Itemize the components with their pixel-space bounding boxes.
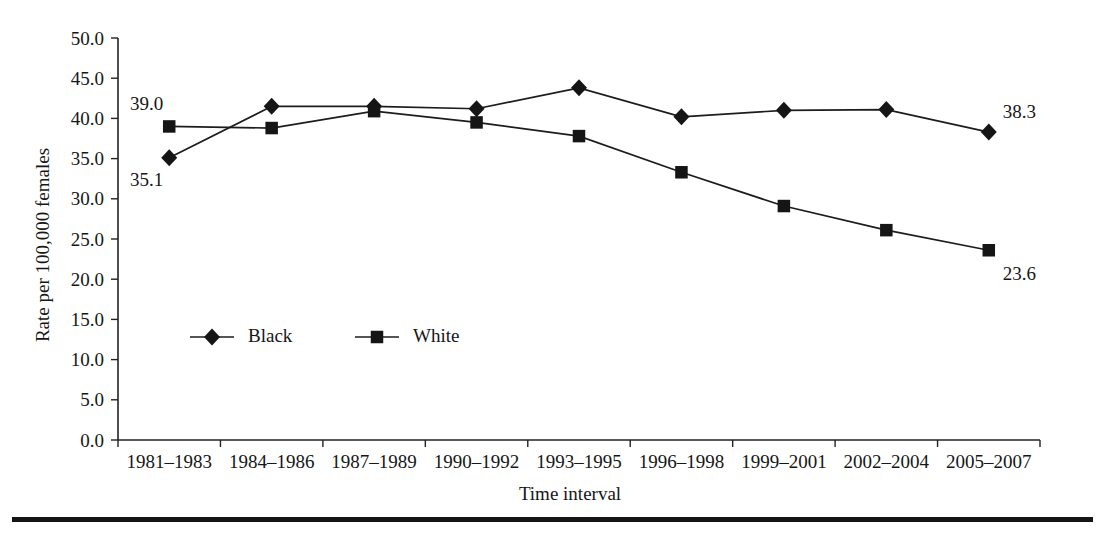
data-point-white-5: [675, 166, 688, 179]
x-tick-label: 1984–1986: [229, 451, 315, 472]
x-axis-ticks: [118, 440, 1040, 447]
x-tick-label: 1996–1998: [639, 451, 725, 472]
y-axis-title: Rate per 100,000 females: [32, 148, 53, 342]
data-point-label: 35.1: [130, 169, 163, 190]
y-tick-label: 50.0: [71, 28, 104, 49]
data-point-black-0: [161, 149, 177, 166]
y-tick-label: 10.0: [71, 349, 104, 370]
x-axis-tick-labels: 1981–19831984–19861987–19891990–19921993…: [126, 451, 1031, 472]
y-tick-label: 5.0: [80, 389, 104, 410]
data-point-black-4: [571, 79, 587, 96]
data-point-white-3: [470, 116, 483, 129]
x-tick-label: 1981–1983: [126, 451, 212, 472]
y-tick-label: 30.0: [71, 188, 104, 209]
line-chart: Rate per 100,000 females Time interval 0…: [0, 0, 1105, 546]
chart-legend[interactable]: BlackWhite: [190, 325, 459, 346]
y-tick-label: 0.0: [80, 430, 104, 451]
data-point-white-2: [368, 105, 381, 118]
data-point-black-8: [981, 124, 997, 141]
y-tick-label: 25.0: [71, 229, 104, 250]
y-axis-ticks: 0.05.010.015.020.025.030.035.040.045.050…: [71, 28, 118, 451]
data-point-black-1: [264, 98, 280, 115]
data-point-black-5: [673, 108, 689, 125]
y-tick-label: 45.0: [71, 68, 104, 89]
data-point-white-8: [983, 244, 996, 256]
series-lines: [169, 88, 989, 250]
x-tick-label: 2002–2004: [844, 451, 930, 472]
series-line-black: [169, 88, 989, 158]
y-tick-label: 20.0: [71, 269, 104, 290]
data-point-white-0: [163, 120, 176, 133]
x-axis-title: Time interval: [519, 483, 621, 504]
y-tick-label: 40.0: [71, 108, 104, 129]
data-point-white-6: [778, 200, 791, 213]
data-point-white-7: [880, 224, 893, 237]
data-point-black-6: [776, 102, 792, 119]
x-tick-label: 1999–2001: [741, 451, 827, 472]
x-tick-label: 1990–1992: [434, 451, 520, 472]
legend-marker-white: [371, 331, 384, 344]
data-point-label: 38.3: [1003, 101, 1036, 122]
y-tick-label: 35.0: [71, 148, 104, 169]
data-point-black-3: [469, 100, 485, 117]
x-tick-label: 1987–1989: [331, 451, 417, 472]
data-point-label: 39.0: [130, 93, 163, 114]
legend-label-white: White: [413, 325, 459, 346]
x-tick-label: 2005–2007: [946, 451, 1032, 472]
x-tick-label: 1993–1995: [536, 451, 622, 472]
legend-marker-black: [204, 329, 220, 346]
data-point-black-7: [878, 101, 894, 118]
data-point-label: 23.6: [1003, 263, 1036, 284]
y-tick-label: 15.0: [71, 309, 104, 330]
data-point-white-4: [573, 130, 586, 143]
figure-container: Rate per 100,000 females Time interval 0…: [0, 0, 1105, 546]
legend-label-black: Black: [248, 325, 293, 346]
data-point-white-1: [265, 122, 278, 135]
bottom-divider: [12, 517, 1093, 522]
